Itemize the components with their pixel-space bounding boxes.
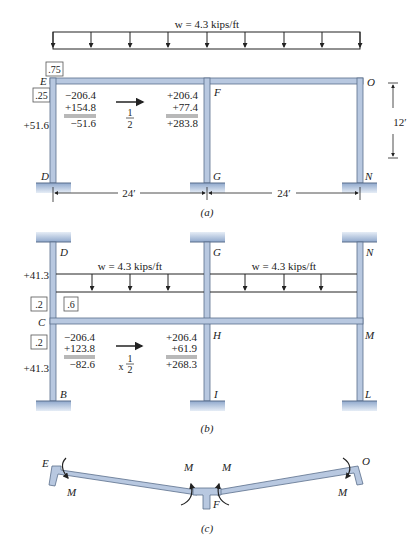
- right-calc-b: +206.4 +61.9 +268.3: [166, 331, 197, 370]
- svg-text:+123.8: +123.8: [64, 342, 95, 354]
- figure-c: E O F M M M M (c): [41, 455, 370, 535]
- caption-b: (b): [201, 422, 214, 435]
- frame-a: [50, 78, 363, 183]
- svg-text:D: D: [59, 246, 68, 258]
- svg-text:O: O: [362, 455, 370, 467]
- svg-text:12′: 12′: [393, 116, 406, 128]
- svg-text:B: B: [60, 388, 67, 400]
- distributed-load-b-right: w = 4.3 kips/ft: [210, 260, 357, 292]
- figure-b: w = 4.3 kips/ft w = 4.3 kips/ft D G N C …: [24, 232, 377, 435]
- distributed-load-a: w = 4.3 kips/ft: [53, 18, 360, 49]
- support-top-N: [342, 232, 377, 242]
- svg-text:−51.6: −51.6: [71, 117, 97, 129]
- frame-analysis-diagram: w = 4.3 kips/ft .75 .25: [0, 0, 413, 547]
- svg-text:I: I: [213, 388, 219, 400]
- svg-text:1: 1: [128, 107, 133, 118]
- right-calc-a: +206.4 +77.4 +283.8: [166, 89, 198, 129]
- upper-moment: +41.3: [24, 269, 50, 281]
- svg-text:+61.9: +61.9: [172, 342, 198, 354]
- left-calc-b: −206.4 +123.8 −82.6: [64, 331, 95, 370]
- svg-text:F: F: [213, 86, 221, 98]
- svg-text:M: M: [183, 461, 194, 473]
- svg-text:−82.6: −82.6: [70, 358, 96, 370]
- svg-text:O: O: [367, 76, 375, 88]
- figure-a: w = 4.3 kips/ft .75 .25: [24, 18, 407, 219]
- caption-c: (c): [201, 522, 214, 535]
- column-moment: +51.6: [24, 119, 50, 131]
- svg-text:N: N: [365, 246, 374, 258]
- svg-text:M: M: [364, 329, 375, 341]
- svg-text:G: G: [213, 246, 221, 258]
- svg-text:x: x: [119, 361, 124, 372]
- left-calc-a: −206.4 +154.8 −51.6: [64, 89, 96, 129]
- svg-text:C: C: [38, 316, 46, 328]
- svg-text:M: M: [66, 486, 77, 498]
- svg-text:w = 4.3 kips/ft: w = 4.3 kips/ft: [98, 260, 162, 272]
- svg-text:.2: .2: [35, 299, 43, 310]
- support-D: [36, 183, 71, 193]
- load-label: w = 4.3 kips/ft: [175, 18, 239, 30]
- support-N: [342, 183, 377, 193]
- svg-text:G: G: [213, 170, 221, 182]
- svg-text:E: E: [39, 75, 47, 87]
- svg-text:H: H: [212, 329, 222, 341]
- svg-text:.2: .2: [35, 337, 43, 348]
- svg-text:2: 2: [128, 364, 133, 375]
- support-top-G: [190, 232, 225, 242]
- deflected-beam: [49, 466, 363, 509]
- svg-text:1: 1: [128, 353, 133, 364]
- svg-text:24′: 24′: [277, 187, 290, 199]
- svg-text:+77.4: +77.4: [173, 101, 199, 113]
- svg-text:M: M: [221, 461, 232, 473]
- distributed-load-b-left: w = 4.3 kips/ft: [56, 260, 204, 292]
- svg-text:M: M: [337, 486, 348, 498]
- svg-text:L: L: [364, 388, 371, 400]
- support-top-D: [36, 232, 71, 242]
- svg-text:+283.8: +283.8: [167, 117, 198, 129]
- support-I: [190, 401, 225, 411]
- svg-text:+206.4: +206.4: [167, 89, 198, 101]
- svg-text:.75: .75: [48, 64, 61, 75]
- svg-text:24′: 24′: [122, 187, 135, 199]
- support-G: [190, 183, 225, 193]
- svg-text:F: F: [212, 498, 220, 510]
- svg-text:N: N: [364, 170, 373, 182]
- svg-text:E: E: [41, 457, 49, 469]
- svg-text:.25: .25: [35, 90, 48, 101]
- lower-moment: +41.3: [24, 362, 50, 374]
- support-B: [36, 401, 71, 411]
- svg-text:+268.3: +268.3: [166, 358, 197, 370]
- svg-text:2: 2: [128, 119, 133, 130]
- svg-text:D: D: [40, 170, 49, 182]
- svg-text:+154.8: +154.8: [65, 101, 96, 113]
- svg-text:w = 4.3 kips/ft: w = 4.3 kips/ft: [252, 260, 316, 272]
- svg-text:−206.4: −206.4: [65, 89, 96, 101]
- caption-a: (a): [201, 206, 214, 219]
- support-L: [342, 401, 377, 411]
- svg-text:.6: .6: [67, 299, 75, 310]
